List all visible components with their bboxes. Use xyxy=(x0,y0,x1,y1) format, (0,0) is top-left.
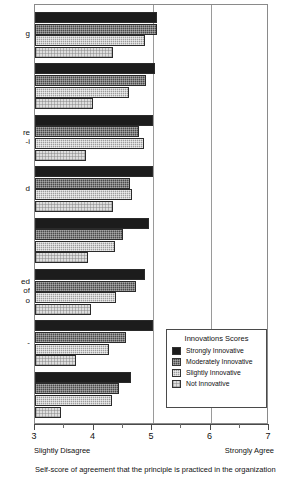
bar xyxy=(35,12,157,23)
bar xyxy=(35,98,93,109)
bar xyxy=(35,166,153,177)
x-tick-label: 5 xyxy=(141,431,161,441)
legend-item-label: Slightly Innovative xyxy=(186,369,241,377)
bar xyxy=(35,126,139,137)
bar xyxy=(35,229,123,240)
bar xyxy=(35,407,61,418)
x-tick-label: 3 xyxy=(24,431,44,441)
y-axis-label: g xyxy=(0,29,30,39)
bar xyxy=(35,189,132,200)
bar xyxy=(35,281,136,292)
bar xyxy=(35,269,145,280)
x-tick-major xyxy=(151,424,152,430)
bar xyxy=(35,395,112,406)
legend-swatch-icon xyxy=(172,358,181,366)
bar xyxy=(35,304,91,315)
legend-item: Slightly Innovative xyxy=(172,369,261,377)
bar-group xyxy=(35,269,267,315)
x-axis-high-anchor: Strongly Agree xyxy=(225,446,274,455)
y-axis-label: re i- xyxy=(0,128,30,147)
bar xyxy=(35,24,157,35)
legend-items: Strongly InnovativeModerately Innovative… xyxy=(172,347,261,388)
bar xyxy=(35,344,109,355)
bar xyxy=(35,150,86,161)
legend-item: Moderately Innovative xyxy=(172,358,261,366)
legend-swatch-icon xyxy=(172,347,181,355)
chart-caption: Self-score of agreement that the princip… xyxy=(35,465,276,475)
bar xyxy=(35,241,115,252)
bar xyxy=(35,292,116,303)
x-tick-label: 6 xyxy=(200,431,220,441)
x-tick-major xyxy=(93,424,94,430)
chart-container: gre i-ded of o- 34567 Slightly Disagree … xyxy=(0,0,284,480)
legend-item: Strongly Innovative xyxy=(172,347,261,355)
x-tick-minor xyxy=(239,424,240,428)
x-axis-low-anchor: Slightly Disagree xyxy=(34,446,90,455)
x-tick-major xyxy=(210,424,211,430)
bar xyxy=(35,320,153,331)
bar-group xyxy=(35,115,267,161)
bar xyxy=(35,355,76,366)
bar xyxy=(35,75,146,86)
bar xyxy=(35,47,113,58)
bar-group xyxy=(35,166,267,212)
legend-item-label: Not Innovative xyxy=(186,380,229,388)
x-tick-minor xyxy=(180,424,181,428)
bar-group xyxy=(35,63,267,109)
bar xyxy=(35,332,126,343)
legend-item-label: Moderately Innovative xyxy=(186,358,253,366)
bar xyxy=(35,201,113,212)
bar xyxy=(35,138,144,149)
legend-swatch-icon xyxy=(172,369,181,377)
bar xyxy=(35,218,149,229)
legend-swatch-icon xyxy=(172,380,181,388)
legend-item: Not Innovative xyxy=(172,380,261,388)
legend-title: Innovations Scores xyxy=(172,334,261,343)
bar xyxy=(35,383,119,394)
bar xyxy=(35,63,155,74)
y-axis-label: d xyxy=(0,184,30,194)
bar-group xyxy=(35,218,267,264)
legend-item-label: Strongly Innovative xyxy=(186,347,244,355)
bar xyxy=(35,178,130,189)
x-tick-major xyxy=(268,424,269,430)
bar xyxy=(35,372,131,383)
x-tick-minor xyxy=(63,424,64,428)
bar xyxy=(35,115,153,126)
x-tick-minor xyxy=(122,424,123,428)
x-tick-label: 4 xyxy=(83,431,103,441)
bar xyxy=(35,35,145,46)
bar-group xyxy=(35,12,267,58)
bar xyxy=(35,87,129,98)
legend: Innovations Scores Strongly InnovativeMo… xyxy=(166,329,267,408)
y-axis-label: ed of o xyxy=(0,277,30,306)
bar xyxy=(35,252,88,263)
y-axis-label: - xyxy=(0,338,30,348)
x-tick-label: 7 xyxy=(258,431,278,441)
x-tick-major xyxy=(34,424,35,430)
